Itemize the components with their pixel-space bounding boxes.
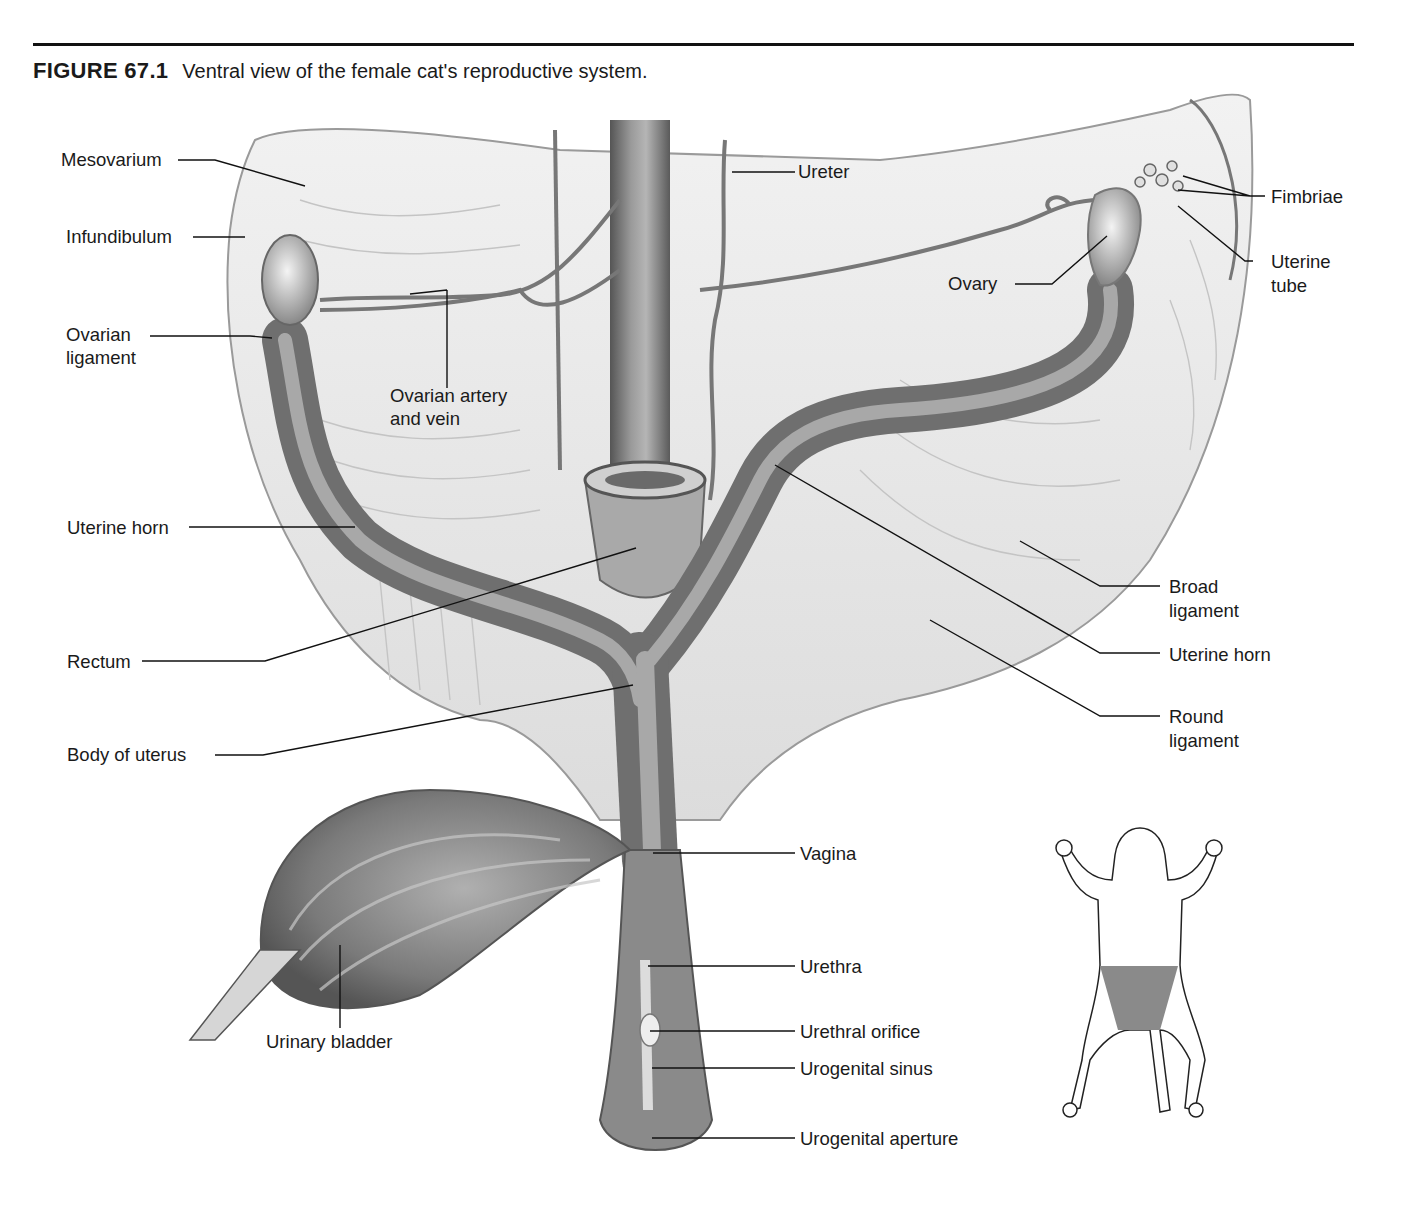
label-ureter: Ureter [798,160,849,184]
label-urinary-bladder: Urinary bladder [266,1030,392,1054]
label-round-ligament-line2: ligament [1169,729,1239,753]
label-urogenital-aperture: Urogenital aperture [800,1127,958,1151]
label-rectum: Rectum [67,650,131,674]
label-broad-ligament-line2: ligament [1169,599,1239,623]
label-fimbriae: Fimbriae [1271,185,1343,209]
label-broad-ligament-line1: Broad [1169,575,1218,599]
label-ovarian-ligament-line2: ligament [66,346,136,370]
label-mesovarium: Mesovarium [61,148,162,172]
label-infundibulum: Infundibulum [66,225,172,249]
label-uterine-horn-right: Uterine horn [1169,643,1271,667]
label-body-of-uterus: Body of uterus [67,743,186,767]
label-ovarian-artery-line2: and vein [390,407,460,431]
label-vagina: Vagina [800,842,856,866]
label-uterine-tube-line2: tube [1271,274,1307,298]
label-urethra: Urethra [800,955,862,979]
left-ovary [262,235,318,325]
label-ovarian-artery-line1: Ovarian artery [390,384,507,408]
cat-orientation-inset [1056,828,1222,1117]
colon-tube [610,120,670,500]
label-ovarian-ligament-line1: Ovarian [66,323,131,347]
label-urethral-orifice: Urethral orifice [800,1020,920,1044]
label-uterine-tube-line1: Uterine [1271,250,1331,274]
label-ovary: Ovary [948,272,997,296]
label-uterine-horn-left: Uterine horn [67,516,169,540]
urinary-bladder [261,790,630,1008]
label-urogenital-sinus: Urogenital sinus [800,1057,933,1081]
forceps [190,950,300,1040]
label-round-ligament-line1: Round [1169,705,1224,729]
